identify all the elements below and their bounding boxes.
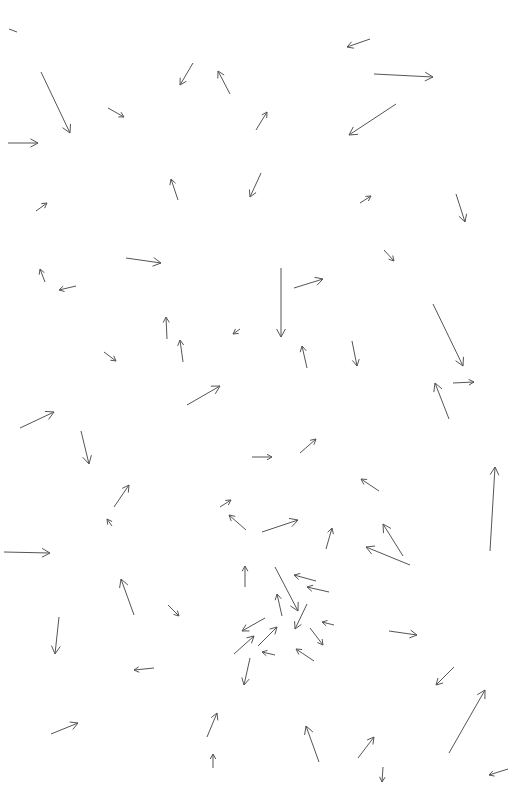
arrow-icon <box>453 379 474 385</box>
arrow-icon <box>352 341 359 366</box>
arrow-icon <box>275 594 282 616</box>
arrow-icon <box>134 667 154 673</box>
arrow-icon <box>114 485 129 507</box>
arrow-icon <box>326 528 333 549</box>
arrow-shaft <box>383 524 403 556</box>
arrow-icon <box>262 518 298 532</box>
arrow-icon <box>126 258 161 267</box>
arrow-shaft <box>449 690 485 753</box>
arrow-icon <box>4 548 50 557</box>
arrow-icon <box>52 617 61 654</box>
arrow-icon <box>258 627 277 646</box>
arrow-shaft <box>296 649 314 661</box>
arrow-icon <box>256 112 267 130</box>
arrow-icon <box>449 690 485 753</box>
arrow-shaft <box>4 552 50 553</box>
arrow-icon <box>9 29 17 32</box>
arrow-shaft <box>258 627 277 646</box>
arrow-icon <box>380 767 386 782</box>
arrow-icon <box>434 383 449 419</box>
arrow-icon <box>178 340 184 362</box>
arrow-icon <box>229 515 246 530</box>
arrow-icon <box>242 566 248 587</box>
arrow-shaft <box>234 636 254 654</box>
arrow-icon <box>294 277 323 288</box>
arrow-icon <box>366 546 410 565</box>
arrow-icon <box>349 104 396 135</box>
arrow-shaft <box>358 737 374 758</box>
arrow-shaft <box>41 72 70 133</box>
arrow-shaft <box>349 104 396 135</box>
arrow-head <box>361 479 367 485</box>
arrow-icon <box>383 524 403 556</box>
arrow-shaft <box>490 467 495 551</box>
arrow-icon <box>436 667 454 685</box>
arrow-shaft <box>433 304 463 366</box>
quiver-plot <box>0 0 517 795</box>
arrow-icon <box>305 726 319 762</box>
arrow-shaft <box>166 317 167 339</box>
arrow-shaft <box>382 767 383 782</box>
arrow-icon <box>207 713 218 737</box>
arrow-icon <box>108 108 124 117</box>
arrow-shaft <box>187 386 220 405</box>
arrow-icon <box>242 658 250 685</box>
arrow-shaft <box>453 382 474 383</box>
arrow-shaft <box>168 605 179 616</box>
arrow-icon <box>389 630 417 638</box>
arrow-shaft <box>9 29 17 32</box>
arrow-icon <box>120 579 134 615</box>
arrow-icon <box>234 636 254 654</box>
arrow-icon <box>41 72 71 133</box>
arrow-icon <box>210 754 216 768</box>
arrow-icon <box>104 352 116 361</box>
arrow-icon <box>262 650 275 655</box>
arrow-icon <box>180 63 193 85</box>
arrow-icon <box>489 769 508 776</box>
arrow-shaft <box>229 515 246 530</box>
arrow-icon <box>242 618 265 631</box>
arrow-icon <box>218 71 230 94</box>
arrow-layer <box>4 29 508 782</box>
arrow-icon <box>310 628 323 645</box>
arrow-shaft <box>366 547 410 565</box>
arrow-icon <box>300 439 316 453</box>
arrow-shaft <box>256 112 267 130</box>
arrow-icon <box>433 304 464 366</box>
arrow-icon <box>384 250 394 261</box>
arrow-icon <box>294 574 316 582</box>
arrow-icon <box>456 194 467 222</box>
arrow-icon <box>107 519 112 526</box>
arrow-icon <box>374 72 433 81</box>
arrow-head <box>296 649 302 655</box>
arrow-icon <box>170 179 178 200</box>
arrow-icon <box>275 567 298 611</box>
arrow-icon <box>347 39 370 48</box>
arrow-icon <box>277 268 286 337</box>
arrow-shaft <box>374 74 433 77</box>
arrow-icon <box>168 605 179 616</box>
arrow-shaft <box>242 618 265 631</box>
arrow-icon <box>358 737 374 758</box>
arrow-icon <box>59 286 76 292</box>
arrow-icon <box>233 329 240 334</box>
arrow-icon <box>249 173 261 197</box>
arrow-icon <box>360 196 371 203</box>
arrow-icon <box>296 649 314 661</box>
arrow-icon <box>163 317 169 339</box>
arrow-icon <box>51 722 78 734</box>
arrow-icon <box>36 203 47 211</box>
arrow-icon <box>252 454 272 460</box>
arrow-shaft <box>310 628 323 645</box>
arrow-icon <box>307 585 329 592</box>
arrow-icon <box>361 479 379 491</box>
arrow-icon <box>8 139 38 147</box>
arrow-shaft <box>436 667 454 685</box>
arrow-icon <box>20 411 54 428</box>
arrow-icon <box>490 467 499 551</box>
arrow-icon <box>81 431 91 464</box>
arrow-icon <box>220 500 231 507</box>
arrow-shaft <box>114 485 129 507</box>
arrow-icon <box>322 621 334 626</box>
arrow-icon <box>187 386 220 405</box>
